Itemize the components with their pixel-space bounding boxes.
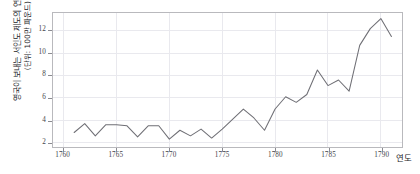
chart-figure: 영국이 보내는 서인도 제도의 연간 출하량 (단위: 100만 파운드) 24… <box>0 0 420 174</box>
x-tick-label: 1785 <box>307 152 351 159</box>
y-tick-label: 10 <box>30 49 46 57</box>
x-tick-mark <box>382 148 383 152</box>
x-tick-mark <box>116 148 117 152</box>
y-tick-label-text: 10 <box>30 49 46 56</box>
y-tick-label: 6 <box>30 94 46 102</box>
x-tick-label: 1760 <box>41 152 85 159</box>
y-tick-label-text: 12 <box>30 26 46 33</box>
data-series <box>53 13 402 147</box>
y-tick-label-text: 4 <box>30 117 46 124</box>
x-tick-mark <box>169 148 170 152</box>
y-tick-label: 8 <box>30 71 46 79</box>
x-tick-mark <box>222 148 223 152</box>
x-tick-label: 1780 <box>253 152 297 159</box>
y-tick-label: 4 <box>30 117 46 125</box>
x-tick-label: 1775 <box>200 152 244 159</box>
x-tick-mark <box>63 148 64 152</box>
y-axis-title-main: 영국이 보내는 서인도 제도의 연간 출하량 <box>13 0 22 101</box>
y-tick-label: 2 <box>30 139 46 147</box>
y-tick-label-text: 2 <box>30 139 46 146</box>
y-tick-label: 12 <box>30 26 46 34</box>
y-tick-label-text: 6 <box>30 94 46 101</box>
x-axis-title: 연도 <box>396 151 412 163</box>
x-tick-label: 1765 <box>94 152 138 159</box>
x-tick-mark <box>329 148 330 152</box>
x-tick-label: 1770 <box>147 152 191 159</box>
x-tick-mark <box>275 148 276 152</box>
y-tick-label-text: 8 <box>30 71 46 78</box>
shipment-line <box>74 19 391 140</box>
plot-area <box>52 12 403 148</box>
